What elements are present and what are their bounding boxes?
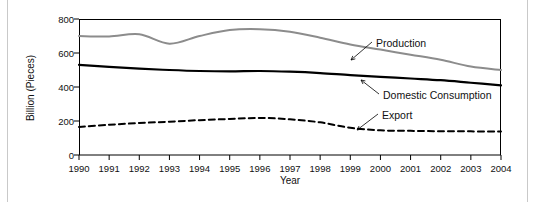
data-series-layer	[79, 29, 501, 131]
x-tick-label-1992: 1992	[129, 163, 150, 174]
line-chart: Billion (Pieces) 800 600 400 200 0 19901…	[0, 0, 538, 203]
y-tick-labels: 800 600 400 200 0	[58, 14, 74, 161]
x-tick-label-1994: 1994	[189, 163, 210, 174]
x-tick-label-1995: 1995	[219, 163, 240, 174]
y-tick-label-800: 800	[58, 14, 74, 25]
x-tick-label-2003: 2003	[460, 163, 481, 174]
plot-area-border	[80, 20, 501, 156]
series-line-production	[79, 29, 501, 70]
annotation-leader-domestic-consumption	[361, 80, 379, 94]
x-axis-title: Year	[280, 175, 301, 186]
x-tick-label-1997: 1997	[279, 163, 300, 174]
x-tick-label-1991: 1991	[99, 163, 120, 174]
x-tick-label-1998: 1998	[310, 163, 331, 174]
x-tick-label-2000: 2000	[370, 163, 391, 174]
x-tick-label-1996: 1996	[249, 163, 270, 174]
x-tick-label-2004: 2004	[490, 163, 511, 174]
y-tick-label-600: 600	[58, 48, 74, 59]
x-tick-label-2001: 2001	[400, 163, 421, 174]
annotation-leader-export	[357, 114, 378, 130]
series-line-domestic-consumption	[79, 65, 501, 85]
x-tick-labels: 1990199119921993199419951996199719981999…	[68, 163, 511, 174]
x-tick-label-2002: 2002	[430, 163, 451, 174]
annotation-label-domestic-consumption: Domestic Consumption	[383, 89, 492, 101]
x-tick-label-1990: 1990	[68, 163, 89, 174]
y-axis-title: Billion (Pieces)	[25, 55, 36, 121]
x-tick-label-1999: 1999	[340, 163, 361, 174]
x-tick-label-1993: 1993	[159, 163, 180, 174]
x-axis-ticks	[79, 155, 501, 160]
annotation-label-export: Export	[382, 109, 412, 121]
y-tick-label-400: 400	[58, 82, 74, 93]
series-line-export	[79, 118, 501, 132]
chart-svg: Billion (Pieces) 800 600 400 200 0 19901…	[0, 0, 538, 203]
annotation-label-production: Production	[376, 37, 426, 49]
y-tick-label-0: 0	[69, 150, 74, 161]
y-axis-ticks	[74, 19, 79, 155]
y-tick-label-200: 200	[58, 116, 74, 127]
